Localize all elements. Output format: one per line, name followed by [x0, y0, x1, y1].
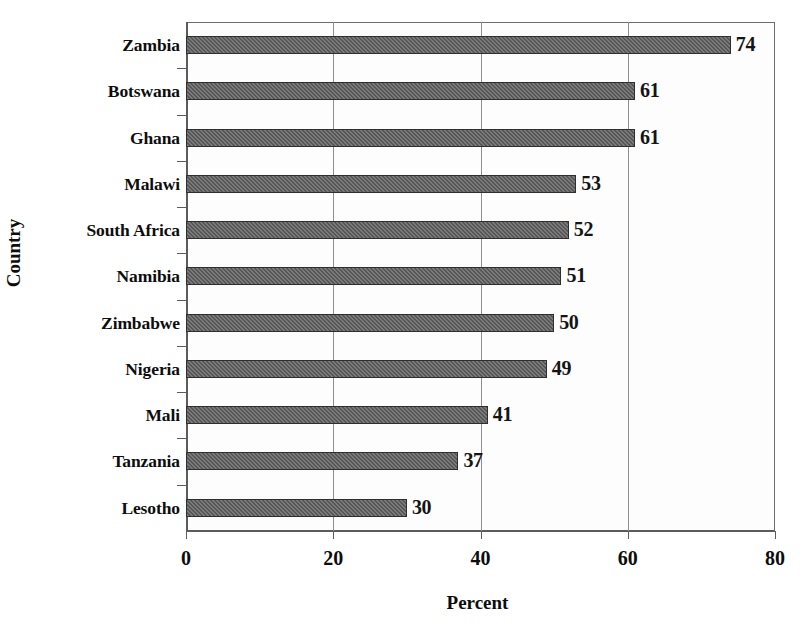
category-label: Zambia: [10, 35, 180, 55]
x-tick-40: [481, 531, 482, 539]
bar-value-label: 51: [566, 264, 585, 286]
category-label: Malawi: [10, 174, 180, 194]
category-label: Mali: [10, 405, 180, 425]
bar-value-label: 61: [640, 79, 659, 101]
bar-value-label: 37: [463, 449, 482, 471]
category-label: Tanzania: [10, 451, 180, 471]
y-axis-title: Country: [3, 193, 25, 313]
x-tick-label-40: 40: [451, 547, 511, 569]
bar[interactable]: [186, 221, 569, 239]
bar-row: 51: [186, 253, 775, 299]
plot-area: 7461615352515049413730: [186, 22, 775, 531]
category-label: Ghana: [10, 128, 180, 148]
bar-value-label: 74: [736, 33, 755, 55]
y-tick: [177, 485, 186, 486]
bar-value-label: 50: [559, 311, 578, 333]
category-label: Botswana: [10, 81, 180, 101]
bar[interactable]: [186, 82, 635, 100]
bar-chart: 7461615352515049413730 ZambiaBotswanaGha…: [0, 0, 803, 635]
category-label: Lesotho: [10, 498, 180, 518]
bar-value-label: 61: [640, 126, 659, 148]
bar-row: 41: [186, 392, 775, 438]
category-label: Zimbabwe: [10, 313, 180, 333]
bar[interactable]: [186, 267, 561, 285]
category-label: Nigeria: [10, 359, 180, 379]
y-tick: [177, 115, 186, 116]
x-tick-label-80: 80: [745, 547, 803, 569]
x-tick-0: [186, 531, 187, 539]
bar-row: 61: [186, 68, 775, 114]
bar-row: 74: [186, 22, 775, 68]
x-tick-label-20: 20: [303, 547, 363, 569]
y-tick: [177, 68, 186, 69]
bar-row: 49: [186, 346, 775, 392]
bar[interactable]: [186, 452, 458, 470]
bar[interactable]: [186, 499, 407, 517]
x-tick-20: [333, 531, 334, 539]
y-tick: [177, 161, 186, 162]
bar-row: 61: [186, 115, 775, 161]
bar[interactable]: [186, 36, 731, 54]
bar[interactable]: [186, 406, 488, 424]
bar-row: 53: [186, 161, 775, 207]
category-label: South Africa: [10, 220, 180, 240]
y-tick: [177, 253, 186, 254]
category-label: Namibia: [10, 266, 180, 286]
x-tick-label-60: 60: [598, 547, 658, 569]
y-tick: [177, 207, 186, 208]
x-tick-80: [775, 531, 776, 539]
bar[interactable]: [186, 314, 554, 332]
bar[interactable]: [186, 175, 576, 193]
bar-row: 52: [186, 207, 775, 253]
bar-row: 37: [186, 438, 775, 484]
x-axis-title-text: Percent: [447, 592, 509, 614]
x-tick-60: [628, 531, 629, 539]
bar-value-label: 52: [574, 218, 593, 240]
x-tick-label-0: 0: [156, 547, 216, 569]
y-tick: [177, 346, 186, 347]
bar-value-label: 49: [552, 357, 571, 379]
y-tick: [177, 300, 186, 301]
bar-value-label: 41: [493, 403, 512, 425]
bar[interactable]: [186, 129, 635, 147]
bar-value-label: 53: [581, 172, 600, 194]
bar[interactable]: [186, 360, 547, 378]
bar-value-label: 30: [412, 496, 431, 518]
bar-row: 50: [186, 300, 775, 346]
x-axis-title: Percent: [0, 592, 803, 614]
bar-row: 30: [186, 485, 775, 531]
y-tick: [177, 392, 186, 393]
y-tick: [177, 438, 186, 439]
